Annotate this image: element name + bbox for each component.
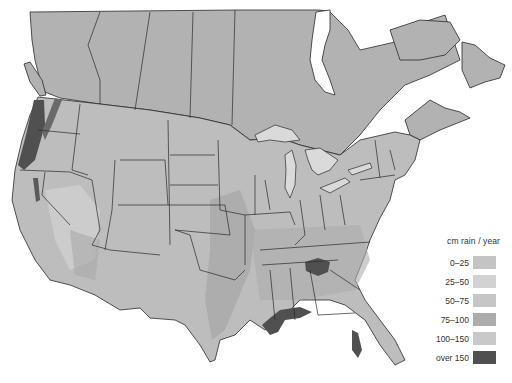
- legend-swatch: [473, 313, 496, 326]
- legend-item-50-75: 50–75: [426, 291, 512, 310]
- legend: cm rain / year 0–25 25–50 50–75 75–100 1…: [426, 236, 512, 367]
- zone-over150-florida: [352, 330, 362, 358]
- legend-label: 100–150: [436, 334, 469, 344]
- legend-swatch: [473, 332, 496, 345]
- legend-label: 0–25: [450, 258, 469, 268]
- legend-swatch: [473, 294, 496, 307]
- legend-label: 75–100: [441, 315, 469, 325]
- legend-label: 25–50: [445, 277, 469, 287]
- legend-item-25-50: 25–50: [426, 272, 512, 291]
- legend-swatch: [473, 256, 496, 269]
- legend-item-75-100: 75–100: [426, 310, 512, 329]
- legend-swatch: [473, 351, 496, 364]
- legend-label: 50–75: [445, 296, 469, 306]
- legend-label: over 150: [436, 353, 469, 363]
- legend-item-100-150: 100–150: [426, 329, 512, 348]
- legend-item-over-150: over 150: [426, 348, 512, 367]
- legend-swatch: [473, 275, 496, 288]
- legend-item-0-25: 0–25: [426, 253, 512, 272]
- legend-title: cm rain / year: [426, 236, 512, 246]
- maritimes: [405, 100, 470, 140]
- newfoundland: [462, 42, 505, 88]
